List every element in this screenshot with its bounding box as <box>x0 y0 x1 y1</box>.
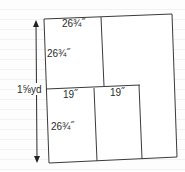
bottom-middle-width-label: 19˝ <box>110 87 125 98</box>
cutting-diagram: 1⅝yd 26¾˝ 26¾˝ 19˝ 26¾˝ 19˝ <box>0 0 185 172</box>
bottom-left-width-label: 19˝ <box>63 89 78 100</box>
arrow-down-icon <box>34 156 40 163</box>
height-label: 1⅝yd <box>17 84 41 95</box>
top-piece-height-label: 26¾˝ <box>47 48 70 59</box>
arrow-up-icon <box>33 20 39 27</box>
bottom-left-height-label: 26¾˝ <box>51 121 74 132</box>
top-piece-width-label: 26¾˝ <box>62 18 85 29</box>
